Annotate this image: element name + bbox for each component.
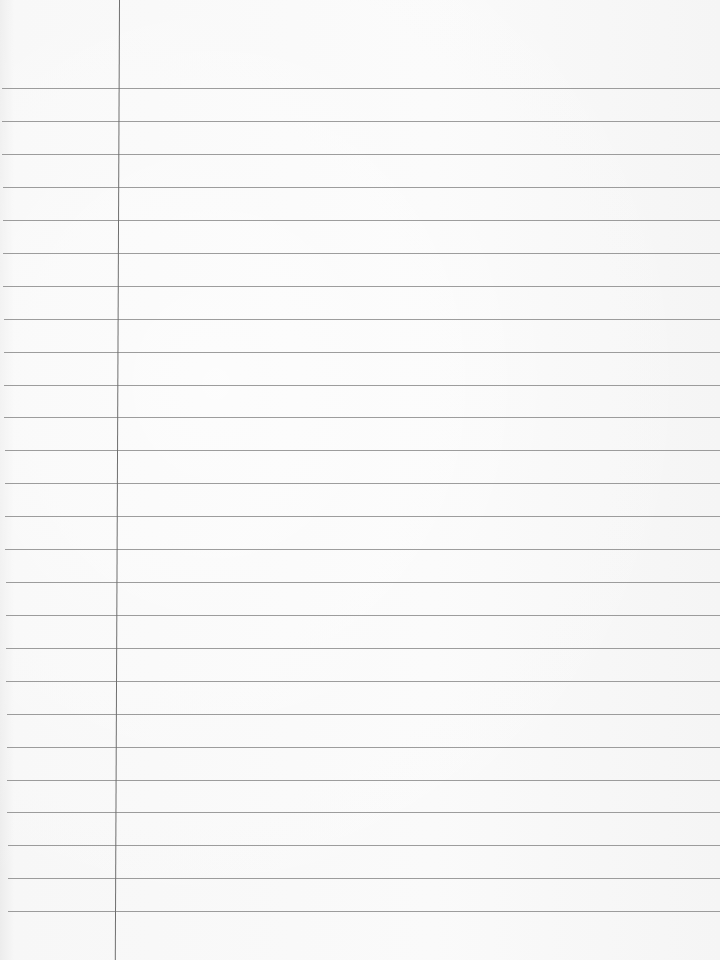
rule-line (4, 319, 720, 320)
rule-line (7, 780, 720, 781)
rule-line (7, 714, 720, 715)
rule-line (6, 648, 720, 649)
rule-line (5, 516, 720, 517)
rule-line (3, 220, 720, 221)
rule-line (2, 154, 720, 155)
rule-line (6, 582, 720, 583)
rule-line (3, 253, 720, 254)
rule-line (7, 812, 720, 813)
margin-line (115, 0, 120, 960)
rule-line (7, 747, 720, 748)
rule-line (5, 483, 720, 484)
rule-line (4, 417, 720, 418)
rule-line (5, 450, 720, 451)
rule-line (2, 88, 720, 89)
rule-line (5, 549, 720, 550)
lined-paper (0, 0, 720, 960)
rule-line (4, 352, 720, 353)
rule-line (3, 286, 720, 287)
rule-line (6, 681, 720, 682)
rule-line (6, 615, 720, 616)
rule-line (2, 121, 720, 122)
rule-line (4, 385, 720, 386)
rule-line (3, 187, 720, 188)
